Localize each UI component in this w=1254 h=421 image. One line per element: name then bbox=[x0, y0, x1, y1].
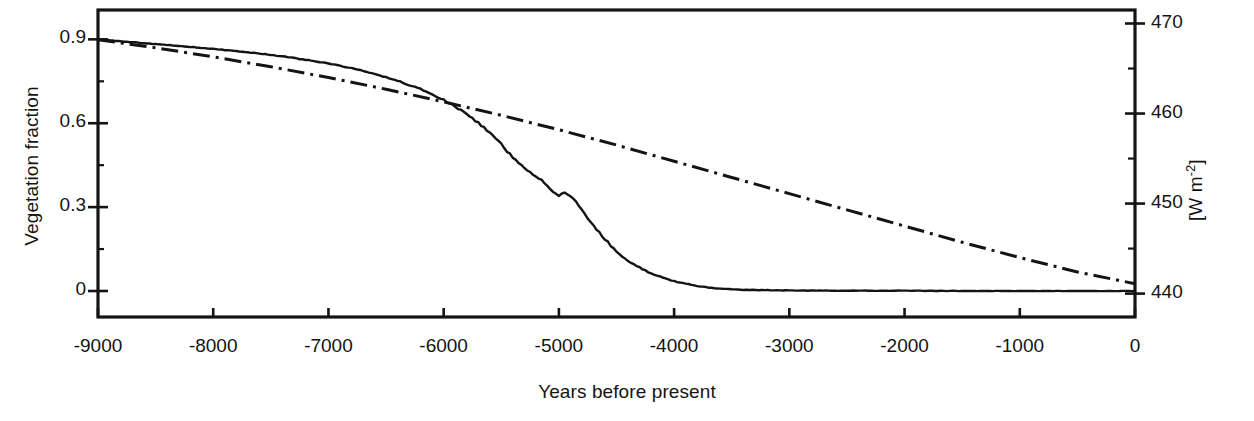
x-tick-label: -8000 bbox=[153, 335, 273, 357]
y-left-tick-label: 0.6 bbox=[16, 110, 86, 132]
x-tick-label: -7000 bbox=[268, 335, 388, 357]
y-left-tick-label: 0.9 bbox=[16, 26, 86, 48]
x-tick-label: -1000 bbox=[960, 335, 1080, 357]
y-axis-left-title: Vegetation fraction bbox=[21, 51, 43, 281]
y-left-tick-label: 0 bbox=[16, 278, 86, 300]
x-tick-label: -4000 bbox=[614, 335, 734, 357]
x-tick-label: -5000 bbox=[499, 335, 619, 357]
y-right-tick-label: 460 bbox=[1151, 101, 1231, 123]
x-axis-title: Years before present bbox=[0, 381, 1254, 403]
chart-figure: Vegetation fraction [W m-2] Years before… bbox=[0, 0, 1254, 421]
y-right-tick-label: 470 bbox=[1151, 11, 1231, 33]
axis-ticks bbox=[88, 24, 1145, 317]
x-tick-label: -6000 bbox=[384, 335, 504, 357]
y-left-tick-label: 0.3 bbox=[16, 194, 86, 216]
data-series bbox=[98, 39, 1135, 291]
series-line-2 bbox=[98, 40, 1135, 284]
x-tick-label: -3000 bbox=[729, 335, 849, 357]
y-axis-right-title-suffix: ] bbox=[1185, 159, 1206, 164]
plot-frame bbox=[98, 10, 1135, 317]
series-line-1 bbox=[98, 39, 1135, 291]
plot-canvas bbox=[0, 0, 1254, 421]
axes-frame bbox=[98, 10, 1135, 317]
y-right-tick-label: 440 bbox=[1151, 281, 1231, 303]
x-tick-label: -9000 bbox=[38, 335, 158, 357]
x-tick-label: -2000 bbox=[845, 335, 965, 357]
x-tick-label: 0 bbox=[1075, 335, 1195, 357]
y-right-tick-label: 450 bbox=[1151, 191, 1231, 213]
y-axis-right-title-exponent: -2 bbox=[1183, 165, 1198, 177]
